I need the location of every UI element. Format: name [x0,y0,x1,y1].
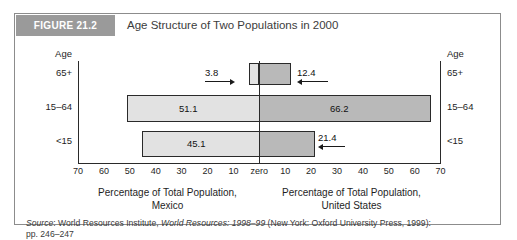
x-tick-13: 60 [410,166,420,176]
figure-number-tag: FIGURE 21.2 [16,15,115,36]
figure-title: Age Structure of Two Populations in 2000 [127,15,338,36]
caption-united-states: Percentage of Total Population, United S… [259,187,444,212]
x-tick-0: 70 [73,166,83,176]
age-label-right-15-64: 15–64 [447,101,501,112]
source-pages: pp. 246–247 [26,229,74,239]
value-label-mexico-65plus: 3.8 [205,68,218,78]
age-labels-right: Age 65+ 15–64 <15 [447,61,501,165]
bar-mexico-65plus[interactable] [249,63,259,85]
age-label-left-15-64: 15–64 [18,101,72,112]
caption-mexico-line2: Mexico [75,200,260,213]
caption-us-line2: United States [259,200,444,213]
value-callout-us-65plus: 12.4 [297,68,316,85]
x-tick-4: 30 [177,166,187,176]
age-label-right-65plus: 65+ [447,67,501,78]
x-tick-14: 70 [436,166,446,176]
age-header-right: Age [447,48,501,59]
x-tick-8: 10 [280,166,290,176]
figure-header: FIGURE 21.2 Age Structure of Two Populat… [15,14,500,37]
chart-plot-area: Age 65+ 15–64 <15 Age 65+ 15–64 <15 3.8 [15,37,500,225]
x-tick-6: 10 [228,166,238,176]
x-tick-3: 40 [151,166,161,176]
age-label-left-under15: <15 [18,135,72,146]
x-tick-5: 20 [202,166,212,176]
x-tick-2: 50 [125,166,135,176]
source-text-b: (New York: Oxford University Press, 1999… [265,218,431,228]
value-label-us-under15: 21.4 [318,133,337,143]
caption-us-line1: Percentage of Total Population, [259,187,444,200]
caption-mexico: Percentage of Total Population, Mexico [75,187,260,212]
caption-mexico-line1: Percentage of Total Population, [75,187,260,200]
arrow-left-icon [297,78,316,85]
age-label-left-65plus: 65+ [18,67,72,78]
source-note: Source: World Resources Institute, World… [26,218,489,240]
age-labels-left: Age 65+ 15–64 <15 [18,61,72,165]
source-text-a: : World Resources Institute, [53,218,161,228]
value-label-us-15-64: 66.2 [330,103,349,114]
value-label-mexico-15-64: 51.1 [179,103,198,114]
x-tick-1: 60 [99,166,109,176]
value-label-us-65plus: 12.4 [297,68,316,78]
x-tick-zero: zero [251,166,269,176]
age-header-left: Age [18,48,72,59]
value-label-mexico-under15: 45.1 [187,138,206,149]
arrow-right-icon [205,78,218,85]
source-label: Source [26,218,53,228]
x-tick-9: 20 [306,166,316,176]
figure-frame: FIGURE 21.2 Age Structure of Two Populat… [14,13,501,225]
arrow-left-icon [318,143,337,150]
value-callout-mexico-65plus: 3.8 [205,68,218,85]
x-axis-tick-labels: 70 60 50 40 30 20 10 zero 10 20 30 40 50… [78,166,441,180]
source-publication-title: World Resources: 1998–99 [161,218,265,228]
value-callout-us-under15: 21.4 [318,133,337,150]
x-tick-11: 40 [358,166,368,176]
zero-center-line [259,61,260,164]
bar-us-under15[interactable] [259,131,315,157]
age-label-right-under15: <15 [447,135,501,146]
x-tick-12: 50 [384,166,394,176]
bar-us-65plus[interactable] [259,63,291,85]
x-tick-10: 30 [332,166,342,176]
